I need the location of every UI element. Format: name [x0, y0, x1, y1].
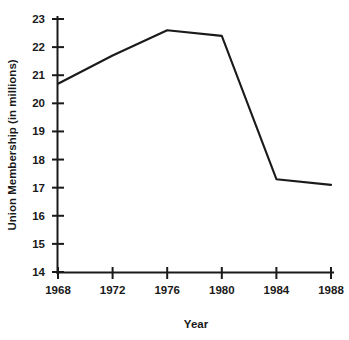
x-axis-title: Year — [184, 318, 209, 330]
y-tick-label: 18 — [32, 154, 45, 166]
y-tick-label: 21 — [32, 69, 45, 81]
union-membership-line-chart: 14151617181920212223 1968197219761980198… — [0, 0, 349, 340]
x-tick-label: 1984 — [264, 284, 290, 296]
x-tick-label: 1988 — [318, 284, 344, 296]
y-tick-label: 14 — [32, 266, 45, 278]
x-tick-label: 1968 — [45, 284, 71, 296]
data-series-line — [58, 30, 331, 185]
axis-group — [57, 17, 333, 273]
chart-container: 14151617181920212223 1968197219761980198… — [0, 0, 349, 340]
y-tick-label: 15 — [32, 238, 45, 250]
y-tick-label: 23 — [32, 13, 45, 25]
x-tick-label: 1972 — [100, 284, 126, 296]
y-axis-ticks: 14151617181920212223 — [32, 13, 64, 278]
x-axis-ticks: 196819721976198019841988 — [45, 267, 344, 296]
y-tick-label: 22 — [32, 41, 45, 53]
y-tick-label: 17 — [32, 182, 45, 194]
y-tick-label: 19 — [32, 125, 45, 137]
y-tick-label: 20 — [32, 97, 45, 109]
y-axis-title: Union Membership (in millions) — [6, 59, 18, 230]
x-tick-label: 1980 — [209, 284, 235, 296]
x-tick-label: 1976 — [154, 284, 180, 296]
y-tick-label: 16 — [32, 210, 45, 222]
